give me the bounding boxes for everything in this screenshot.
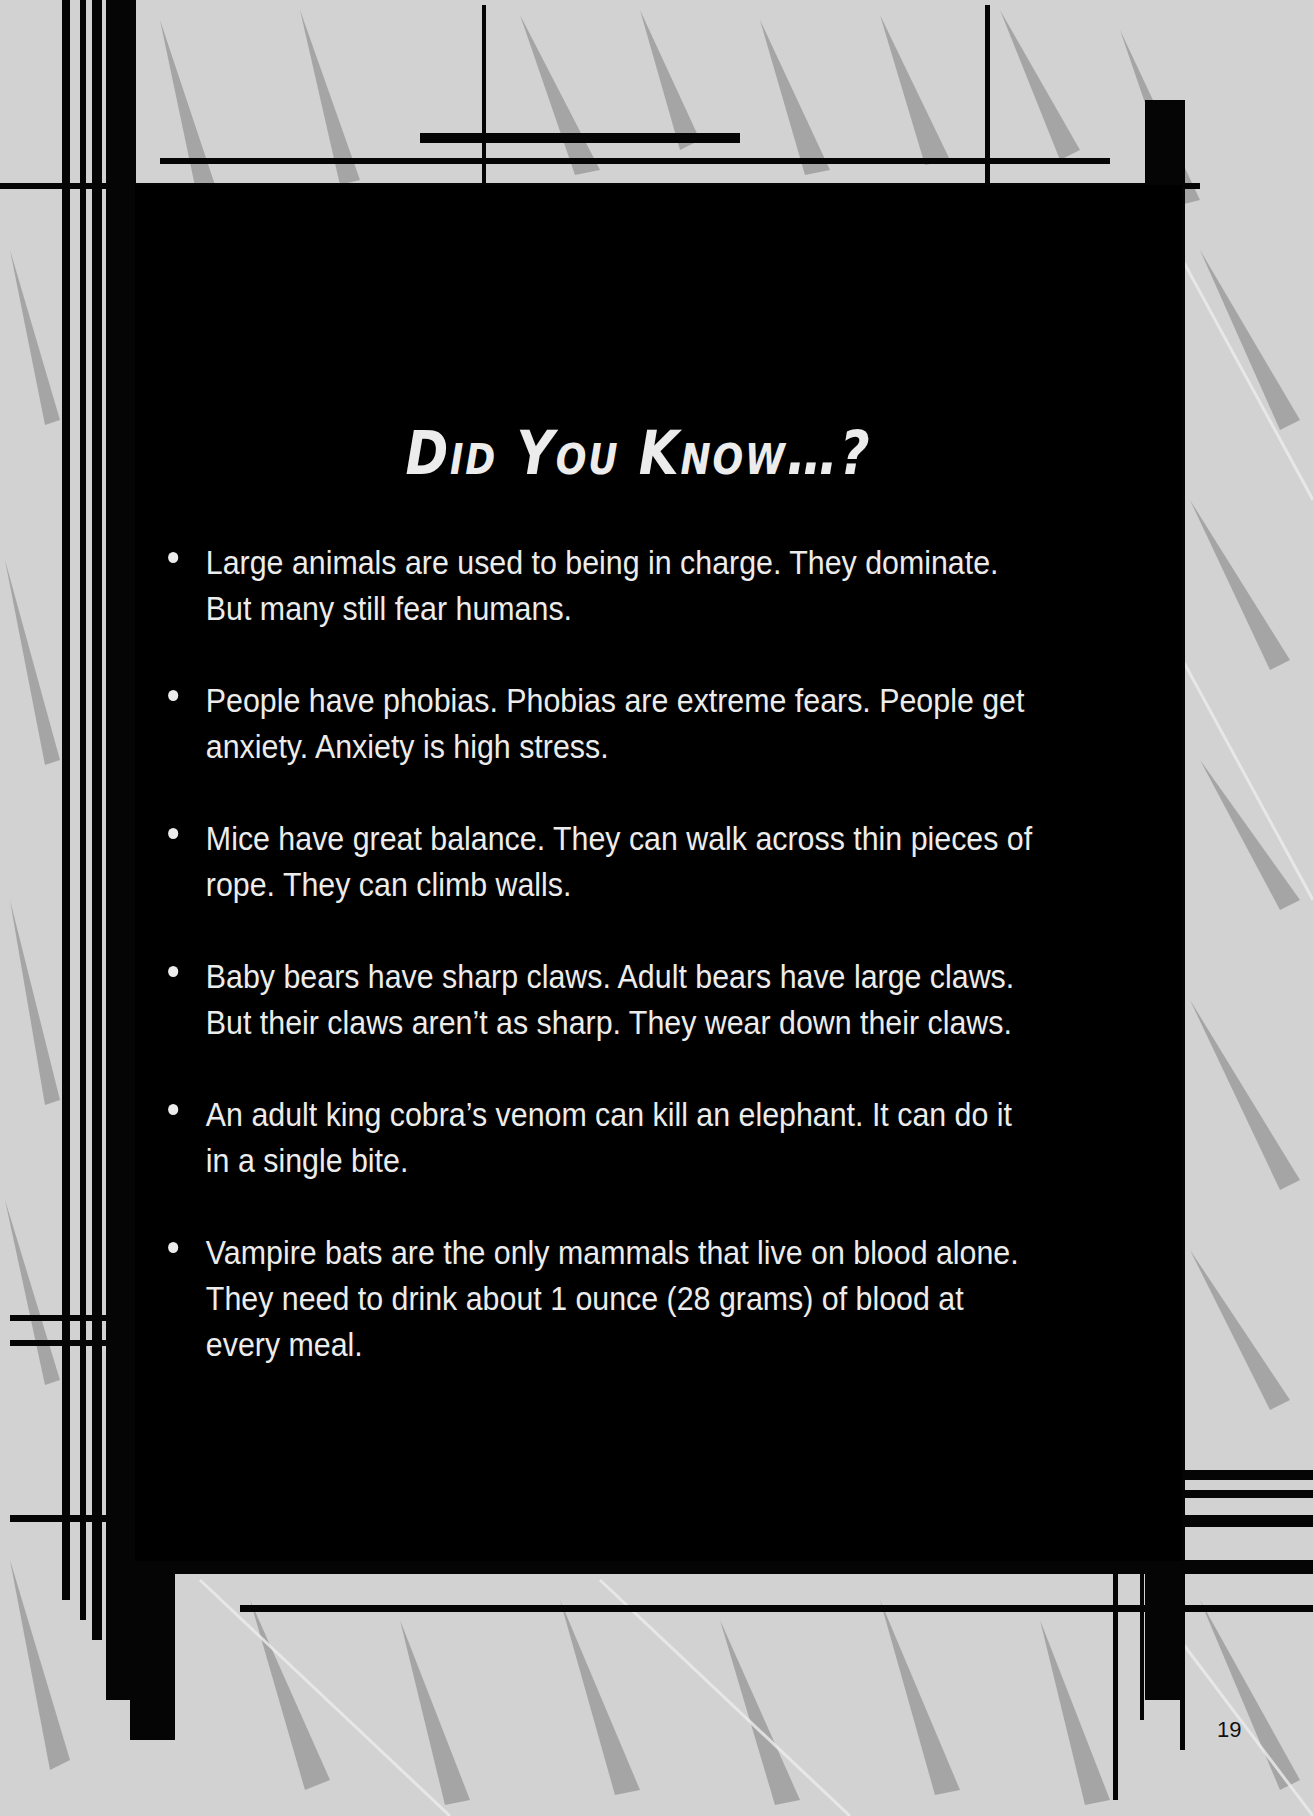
list-item: Baby bears have sharp claws. Adult bears… bbox=[135, 954, 1034, 1046]
brush-stroke bbox=[62, 0, 70, 1600]
fact-text: People have phobias. Phobias are extreme… bbox=[206, 682, 1025, 765]
list-item: Vampire bats are the only mammals that l… bbox=[135, 1230, 1034, 1368]
brush-stroke bbox=[106, 0, 136, 1700]
list-item: Large animals are used to being in charg… bbox=[135, 540, 1034, 632]
list-item: People have phobias. Phobias are extreme… bbox=[135, 678, 1034, 770]
page-number: 19 bbox=[1217, 1717, 1241, 1743]
brush-stroke bbox=[1180, 1560, 1185, 1750]
fact-text: Mice have great balance. They can walk a… bbox=[206, 820, 1032, 903]
bullet-icon bbox=[168, 1242, 178, 1253]
fact-panel: Did You Know…? Large animals are used to… bbox=[135, 185, 1182, 1561]
fact-text: Baby bears have sharp claws. Adult bears… bbox=[206, 958, 1014, 1041]
brush-stroke bbox=[150, 1560, 1313, 1574]
fact-text: An adult king cobra’s venom can kill an … bbox=[206, 1096, 1012, 1179]
brush-stroke bbox=[10, 1315, 130, 1321]
facts-list: Large animals are used to being in charg… bbox=[135, 540, 1182, 1414]
fact-text: Large animals are used to being in charg… bbox=[206, 544, 999, 627]
bullet-icon bbox=[168, 966, 178, 977]
brush-stroke bbox=[1140, 1560, 1144, 1720]
brush-stroke bbox=[80, 0, 86, 1620]
brush-stroke bbox=[1175, 1515, 1313, 1527]
brush-stroke bbox=[420, 133, 740, 143]
bullet-icon bbox=[168, 690, 178, 701]
brush-stroke bbox=[10, 1340, 130, 1346]
brush-stroke bbox=[1113, 1560, 1118, 1800]
bullet-icon bbox=[168, 1104, 178, 1115]
brush-stroke bbox=[130, 1550, 175, 1740]
brush-stroke bbox=[1175, 1470, 1313, 1480]
bullet-icon bbox=[168, 552, 178, 563]
brush-stroke bbox=[160, 158, 1110, 164]
page-title: Did You Know…? bbox=[188, 418, 1088, 488]
brush-stroke bbox=[10, 1515, 130, 1522]
fact-text: Vampire bats are the only mammals that l… bbox=[206, 1234, 1019, 1363]
brush-stroke bbox=[92, 0, 102, 1640]
brush-stroke bbox=[240, 1605, 1313, 1612]
list-item: An adult king cobra’s venom can kill an … bbox=[135, 1092, 1034, 1184]
brush-stroke bbox=[1175, 1490, 1313, 1498]
list-item: Mice have great balance. They can walk a… bbox=[135, 816, 1034, 908]
bullet-icon bbox=[168, 828, 178, 839]
